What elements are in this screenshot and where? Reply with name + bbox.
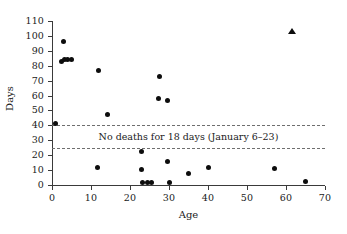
y-axis-title: Days: [4, 69, 15, 129]
x-tick-label: 30: [156, 192, 182, 203]
y-tick-mark: [48, 96, 52, 97]
y-tick-label: 80: [18, 60, 44, 71]
scatter-chart-figure: 0102030405060708090100110 01020304050607…: [0, 0, 347, 234]
data-point-circle: [167, 180, 172, 185]
y-tick-mark: [48, 66, 52, 67]
data-point-circle: [61, 39, 66, 44]
x-tick-mark: [325, 186, 326, 190]
y-tick-label: 10: [18, 164, 44, 175]
y-tick-mark: [48, 81, 52, 82]
y-tick-label: 110: [18, 15, 44, 26]
data-point-circle: [303, 179, 308, 184]
data-point-circle: [69, 57, 74, 62]
data-point-circle: [186, 171, 191, 176]
y-tick-mark: [48, 51, 52, 52]
y-tick-mark: [48, 170, 52, 171]
x-tick-mark: [91, 186, 92, 190]
x-tick-mark: [247, 186, 248, 190]
y-tick-label: 0: [18, 179, 44, 190]
chart-annotation: No deaths for 18 days (January 6–23): [52, 131, 325, 142]
data-point-circle: [156, 96, 161, 101]
data-point-circle: [95, 165, 100, 170]
reference-dashed-line: [52, 148, 325, 149]
data-point-circle: [165, 98, 170, 103]
y-tick-label: 100: [18, 30, 44, 41]
x-axis-title: Age: [52, 209, 325, 220]
data-point-circle: [139, 167, 144, 172]
reference-dashed-line: [52, 125, 325, 126]
y-tick-label: 40: [18, 119, 44, 130]
y-tick-label: 30: [18, 134, 44, 145]
x-tick-mark: [286, 186, 287, 190]
x-tick-label: 60: [273, 192, 299, 203]
y-tick-label: 20: [18, 149, 44, 160]
data-point-circle: [96, 68, 101, 73]
x-tick-mark: [169, 186, 170, 190]
y-axis-line: [52, 21, 53, 186]
data-point-circle: [272, 166, 277, 171]
x-tick-mark: [208, 186, 209, 190]
x-tick-label: 0: [39, 192, 65, 203]
y-tick-label: 50: [18, 104, 44, 115]
x-tick-label: 10: [78, 192, 104, 203]
y-tick-mark: [48, 155, 52, 156]
y-tick-mark: [48, 36, 52, 37]
x-tick-label: 70: [312, 192, 338, 203]
data-point-circle: [105, 112, 110, 117]
y-tick-label: 70: [18, 75, 44, 86]
plot-area: 0102030405060708090100110 01020304050607…: [52, 21, 325, 186]
data-point-circle: [206, 165, 211, 170]
y-tick-mark: [48, 21, 52, 22]
x-axis-line: [52, 185, 325, 186]
data-point-circle: [139, 149, 144, 154]
y-tick-label: 60: [18, 90, 44, 101]
x-tick-label: 40: [195, 192, 221, 203]
data-point-triangle: [288, 28, 296, 34]
data-point-circle: [165, 159, 170, 164]
y-tick-mark: [48, 110, 52, 111]
data-point-circle: [157, 74, 162, 79]
x-tick-label: 20: [117, 192, 143, 203]
x-tick-mark: [52, 186, 53, 190]
x-tick-mark: [130, 186, 131, 190]
y-tick-label: 90: [18, 45, 44, 56]
x-tick-label: 50: [234, 192, 260, 203]
